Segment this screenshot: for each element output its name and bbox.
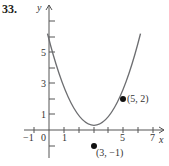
y-tick-label-5: 5: [41, 47, 46, 58]
y-tick-label-1: 1: [41, 109, 46, 120]
vertex-label: (3, −1): [96, 147, 123, 159]
x-tick-label-5: 5: [120, 132, 125, 143]
y-axis: [46, 5, 52, 158]
y-axis-label: y: [36, 2, 42, 13]
point-5-2: [120, 96, 126, 102]
x-tick-label-1: 1: [62, 132, 67, 143]
y-ticks: [49, 21, 55, 146]
x-tick-label-7: 7: [150, 132, 155, 143]
parabola-graph: y x 0 −1 1 5 7 1 3 5 (3, −1) (5, 2): [0, 0, 169, 166]
parabola-curve: [48, 34, 141, 126]
x-axis-label: x: [158, 134, 164, 145]
y-tick-label-3: 3: [41, 78, 46, 89]
point-5-2-label: (5, 2): [127, 93, 149, 105]
origin-label: 0: [41, 132, 46, 143]
x-tick-label-neg1: −1: [23, 132, 34, 143]
